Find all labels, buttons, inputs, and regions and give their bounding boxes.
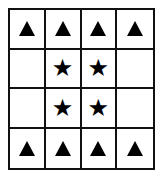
grid-cell	[82, 10, 118, 50]
triangle-icon	[127, 141, 143, 156]
triangle-icon	[19, 141, 35, 156]
grid-cell	[117, 10, 153, 50]
grid-cell	[10, 10, 46, 50]
grid-cell: ★	[82, 89, 118, 129]
triangle-icon	[127, 21, 143, 36]
triangle-icon	[90, 21, 106, 36]
triangle-icon	[19, 21, 35, 36]
grid-cell: ★	[46, 89, 82, 129]
grid-cell	[117, 50, 153, 90]
triangle-icon	[55, 141, 71, 156]
grid-cell	[117, 129, 153, 169]
star-icon: ★	[88, 96, 110, 120]
grid-cell: ★	[82, 50, 118, 90]
triangle-icon	[90, 141, 106, 156]
grid-cell	[46, 10, 82, 50]
grid-cell	[82, 129, 118, 169]
grid-cell	[117, 89, 153, 129]
grid-cell	[46, 129, 82, 169]
grid-cell	[10, 50, 46, 90]
triangle-icon	[55, 21, 71, 36]
star-icon: ★	[52, 96, 74, 120]
grid-cell	[10, 89, 46, 129]
grid-cell	[10, 129, 46, 169]
grid-cell: ★	[46, 50, 82, 90]
star-icon: ★	[88, 56, 110, 80]
symbol-grid: ★★★★	[8, 8, 155, 170]
star-icon: ★	[52, 56, 74, 80]
